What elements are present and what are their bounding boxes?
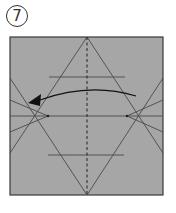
right-vertex-dot: [126, 115, 129, 118]
origami-diagram: [0, 0, 176, 213]
left-vertex-dot: [47, 115, 50, 118]
